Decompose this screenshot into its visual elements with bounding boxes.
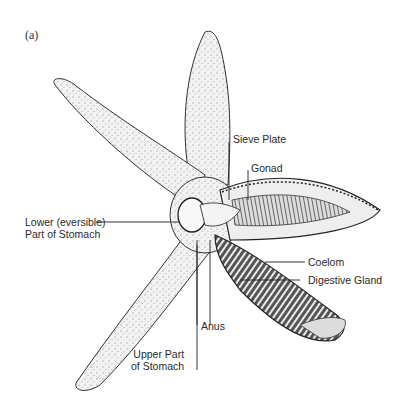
label-lower-stomach-line1: Lower (eversible) — [25, 216, 106, 228]
starfish-diagram: (a) Sieve Plate Gonad Lower (eversible) … — [0, 0, 403, 416]
label-upper-stomach: Upper Part of Stomach — [131, 348, 184, 372]
label-lower-stomach-line2: Part of Stomach — [25, 228, 106, 240]
label-lower-stomach: Lower (eversible) Part of Stomach — [25, 216, 106, 240]
label-upper-stomach-line2: of Stomach — [131, 360, 184, 372]
lower-stomach — [178, 198, 206, 232]
label-coelom: Coelom — [308, 256, 344, 268]
label-gonad: Gonad — [251, 162, 283, 174]
label-digestive-gland: Digestive Gland — [308, 274, 382, 286]
arm-top — [185, 31, 230, 185]
starfish-illustration — [0, 0, 403, 416]
label-sieve-plate: Sieve Plate — [233, 133, 286, 145]
panel-label: (a) — [25, 28, 38, 43]
label-anus: Anus — [201, 320, 225, 332]
label-upper-stomach-line1: Upper Part — [131, 348, 184, 360]
